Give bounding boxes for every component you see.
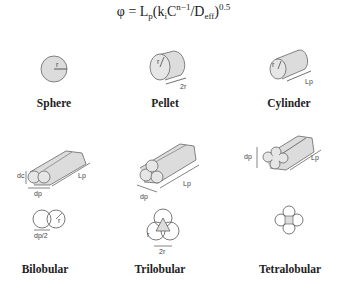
- svg-text:Lp: Lp: [311, 154, 319, 162]
- svg-text:2r: 2r: [180, 83, 187, 90]
- svg-text:dp: dp: [140, 193, 148, 201]
- label-sphere: Sphere: [9, 97, 99, 109]
- label-bilobular: Bilobular: [0, 263, 90, 275]
- label-trilobular: Trilobular: [115, 263, 205, 275]
- svg-text:Lp: Lp: [183, 180, 191, 188]
- tetralobular-shape: dp Lp: [244, 136, 321, 234]
- catalyst-shapes-diagram: r r 2r r Lp dc dp Lp r dp/2: [0, 0, 347, 288]
- svg-text:dc: dc: [17, 172, 25, 179]
- svg-text:2r: 2r: [159, 248, 166, 255]
- label-cylinder: Cylinder: [244, 97, 334, 109]
- label-pellet: Pellet: [120, 97, 210, 109]
- sphere-shape: r: [41, 56, 67, 82]
- label-tetralobular: Tetralobular: [245, 263, 335, 275]
- svg-text:dp: dp: [244, 153, 252, 161]
- svg-text:dp/2: dp/2: [34, 232, 48, 240]
- cylinder-shape: r Lp: [270, 50, 313, 86]
- pellet-shape: r 2r: [150, 51, 187, 90]
- trilobular-shape: dp Lp r 2r: [137, 144, 199, 255]
- svg-text:Lp: Lp: [305, 78, 313, 86]
- svg-text:Lp: Lp: [78, 172, 86, 180]
- bilobular-shape: dc dp Lp r dp/2: [17, 151, 90, 240]
- svg-text:r: r: [58, 217, 61, 224]
- svg-text:dp: dp: [34, 190, 42, 198]
